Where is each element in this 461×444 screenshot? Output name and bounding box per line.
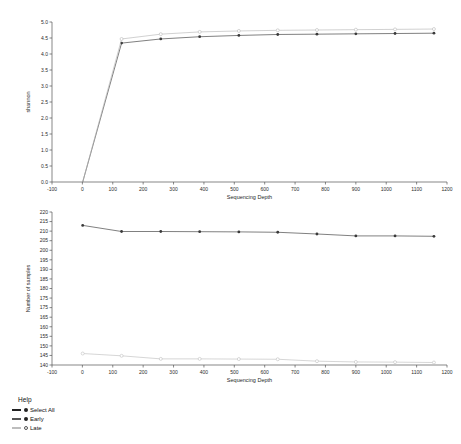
svg-text:800: 800 bbox=[321, 369, 330, 375]
svg-text:200: 200 bbox=[139, 186, 148, 192]
svg-text:200: 200 bbox=[40, 247, 49, 253]
svg-text:100: 100 bbox=[109, 369, 118, 375]
svg-text:220: 220 bbox=[40, 209, 49, 215]
legend-panel: Help Select AllEarlyLate bbox=[12, 396, 212, 433]
svg-text:140: 140 bbox=[40, 362, 49, 368]
svg-text:1.5: 1.5 bbox=[41, 131, 48, 137]
svg-text:0: 0 bbox=[81, 186, 84, 192]
svg-text:Sequencing Depth: Sequencing Depth bbox=[227, 377, 272, 383]
svg-text:175: 175 bbox=[40, 304, 49, 310]
svg-text:1000: 1000 bbox=[381, 186, 392, 192]
svg-text:900: 900 bbox=[352, 369, 361, 375]
svg-text:500: 500 bbox=[230, 186, 239, 192]
svg-text:210: 210 bbox=[40, 228, 49, 234]
svg-text:5.0: 5.0 bbox=[41, 19, 48, 25]
legend-line-swatch-icon bbox=[12, 409, 21, 411]
legend-line-swatch-icon bbox=[12, 427, 21, 429]
filled-circle-icon bbox=[24, 408, 28, 412]
svg-text:700: 700 bbox=[291, 369, 300, 375]
svg-text:500: 500 bbox=[230, 369, 239, 375]
svg-text:2.0: 2.0 bbox=[41, 115, 48, 121]
svg-text:0: 0 bbox=[81, 369, 84, 375]
svg-text:600: 600 bbox=[261, 186, 270, 192]
svg-text:155: 155 bbox=[40, 333, 49, 339]
svg-text:205: 205 bbox=[40, 237, 49, 243]
svg-text:195: 195 bbox=[40, 257, 49, 263]
svg-text:1000: 1000 bbox=[381, 369, 392, 375]
open-circle-icon bbox=[24, 426, 28, 430]
svg-text:0.5: 0.5 bbox=[41, 163, 48, 169]
legend-item-label: Late bbox=[30, 424, 42, 432]
legend-item-label: Select All bbox=[30, 406, 55, 414]
svg-text:Number of samples: Number of samples bbox=[25, 264, 31, 312]
svg-text:600: 600 bbox=[261, 369, 270, 375]
svg-text:1200: 1200 bbox=[441, 369, 452, 375]
legend-line-swatch-icon bbox=[12, 418, 21, 420]
svg-text:400: 400 bbox=[200, 186, 209, 192]
svg-text:400: 400 bbox=[200, 369, 209, 375]
svg-text:180: 180 bbox=[40, 285, 49, 291]
svg-text:900: 900 bbox=[352, 186, 361, 192]
svg-text:145: 145 bbox=[40, 352, 49, 358]
legend-item-label: Early bbox=[30, 415, 44, 423]
svg-text:175: 175 bbox=[40, 295, 49, 301]
svg-text:200: 200 bbox=[139, 369, 148, 375]
svg-text:190: 190 bbox=[40, 266, 49, 272]
svg-text:-100: -100 bbox=[47, 369, 57, 375]
svg-text:4.5: 4.5 bbox=[41, 35, 48, 41]
filled-circle-icon bbox=[24, 417, 28, 421]
samples-chart-svg[interactable]: -100010020030040050060070080090010001100… bbox=[0, 200, 461, 390]
svg-text:800: 800 bbox=[321, 186, 330, 192]
svg-text:3.0: 3.0 bbox=[41, 83, 48, 89]
legend-items: Select AllEarlyLate bbox=[12, 406, 212, 432]
svg-text:100: 100 bbox=[109, 186, 118, 192]
svg-text:165: 165 bbox=[40, 314, 49, 320]
svg-text:1100: 1100 bbox=[411, 369, 422, 375]
svg-text:-100: -100 bbox=[47, 186, 57, 192]
svg-text:300: 300 bbox=[169, 186, 178, 192]
help-label[interactable]: Help bbox=[18, 396, 212, 403]
legend-item-late[interactable]: Late bbox=[12, 424, 212, 432]
svg-text:shannon: shannon bbox=[25, 91, 31, 112]
svg-text:160: 160 bbox=[40, 324, 49, 330]
svg-text:215: 215 bbox=[40, 218, 49, 224]
svg-text:700: 700 bbox=[291, 186, 300, 192]
svg-text:185: 185 bbox=[40, 276, 49, 282]
svg-text:2.5: 2.5 bbox=[41, 99, 48, 105]
svg-text:1.0: 1.0 bbox=[41, 147, 48, 153]
samples-chart-panel: -100010020030040050060070080090010001100… bbox=[0, 200, 461, 390]
legend-item-select-all[interactable]: Select All bbox=[12, 406, 212, 414]
shannon-chart-svg[interactable]: -100010020030040050060070080090010001100… bbox=[0, 6, 461, 202]
svg-text:1100: 1100 bbox=[411, 186, 422, 192]
svg-text:1200: 1200 bbox=[441, 186, 452, 192]
svg-text:3.5: 3.5 bbox=[41, 67, 48, 73]
shannon-chart-panel: -100010020030040050060070080090010001100… bbox=[0, 6, 461, 202]
legend-item-early[interactable]: Early bbox=[12, 415, 212, 423]
svg-text:4.0: 4.0 bbox=[41, 51, 48, 57]
svg-text:0.0: 0.0 bbox=[41, 179, 48, 185]
svg-text:150: 150 bbox=[40, 343, 49, 349]
svg-text:300: 300 bbox=[169, 369, 178, 375]
